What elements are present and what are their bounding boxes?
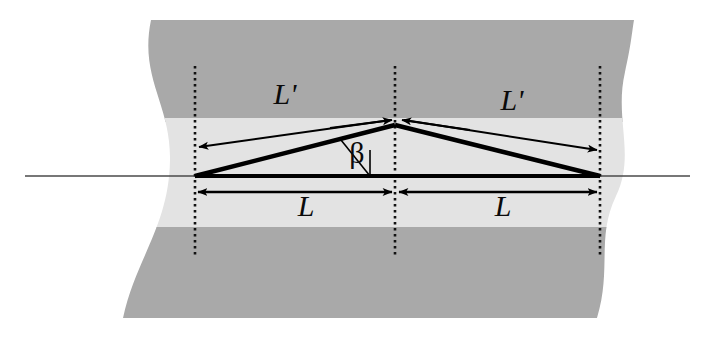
label-l-prime-left: L' xyxy=(272,77,297,110)
label-l-right: L xyxy=(494,189,512,222)
label-beta: β xyxy=(349,136,364,169)
label-l-prime-right: L' xyxy=(499,83,524,116)
figure-canvas: L' L' β L L xyxy=(0,0,711,342)
label-l-left: L xyxy=(297,189,315,222)
geometry-diagram-svg: L' L' β L L xyxy=(0,0,711,342)
